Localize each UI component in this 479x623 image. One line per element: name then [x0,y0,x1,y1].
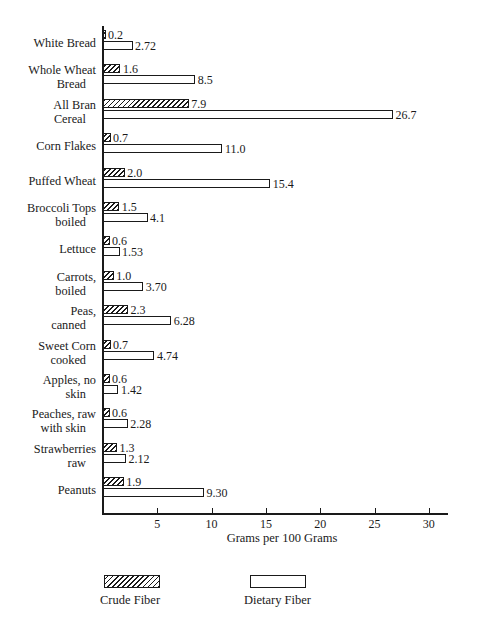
x-axis-tick-30 [429,508,430,513]
category-label-line2: boiled [0,215,96,229]
category-label-line1: Apples, no [43,373,96,387]
category-label-7: Carrots,boiled [0,270,96,298]
value-label-dietary-5: 4.1 [150,212,165,224]
category-label-line2: boiled [0,284,96,298]
value-label-dietary-4: 15.4 [273,178,294,190]
x-axis-line [102,513,448,515]
bar-crude-6 [103,236,110,245]
category-label-9: Sweet Corncooked [0,339,96,367]
category-label-line1: Carrots, [57,270,96,284]
bar-dietary-0 [103,41,133,50]
category-label-line1: Peaches, raw [32,407,96,421]
category-label-line1: Strawberries [34,442,96,456]
category-label-11: Peaches, rawwith skin [0,407,96,435]
x-axis-tick-label-30: 30 [409,517,449,532]
bar-dietary-3 [103,144,222,153]
legend-swatch-crude-fiber [104,575,160,588]
bar-crude-3 [103,133,111,142]
x-axis-tick-25 [375,508,376,513]
value-label-dietary-9: 4.74 [157,350,178,362]
category-label-line1: Peas, [70,304,96,318]
category-label-12: Strawberriesraw [0,442,96,470]
bar-dietary-5 [103,213,148,222]
value-label-dietary-8: 6.28 [174,315,195,327]
category-label-line2: cooked [0,353,96,367]
bar-dietary-9 [103,351,154,360]
value-label-crude-11: 0.6 [112,407,127,419]
value-label-crude-7: 1.0 [116,270,131,282]
bar-dietary-10 [103,385,118,394]
x-axis-tick-label-25: 25 [355,517,395,532]
value-label-dietary-0: 2.72 [135,40,156,52]
value-label-dietary-3: 11.0 [225,143,246,155]
bar-crude-5 [103,202,119,211]
x-axis-tick-5 [157,508,158,513]
bar-dietary-12 [103,454,126,463]
value-label-crude-8: 2.3 [130,304,145,316]
value-label-crude-9: 0.7 [113,339,128,351]
bar-crude-10 [103,374,110,383]
category-label-line1: Whole Wheat [28,63,96,77]
bar-crude-13 [103,477,124,486]
value-label-dietary-11: 2.28 [130,418,151,430]
bar-crude-4 [103,168,125,177]
x-axis-tick-label-15: 15 [246,517,286,532]
category-label-3: Corn Flakes [0,139,96,153]
bar-dietary-2 [103,110,393,119]
category-label-10: Apples, noskin [0,373,96,401]
bar-crude-11 [103,408,110,417]
bar-crude-7 [103,271,114,280]
value-label-dietary-6: 1.53 [122,246,143,258]
bar-dietary-7 [103,282,143,291]
x-axis-tick-20 [320,508,321,513]
category-label-4: Puffed Wheat [0,174,96,188]
bar-crude-9 [103,340,111,349]
value-label-crude-3: 0.7 [113,132,128,144]
bar-dietary-11 [103,419,128,428]
category-label-5: Broccoli Topsboiled [0,201,96,229]
category-label-8: Peas,canned [0,304,96,332]
category-label-line1: Sweet Corn [38,339,96,353]
category-label-line1: White Bread [34,36,96,50]
category-label-line1: Lettuce [59,242,96,256]
bar-dietary-4 [103,179,270,188]
bar-crude-8 [103,305,128,314]
value-label-crude-5: 1.5 [122,201,137,213]
category-label-line2: with skin [0,421,96,435]
category-label-line2: raw [0,456,96,470]
legend-label-crude-fiber: Crude Fiber [100,593,160,608]
category-label-line2: Cereal [0,112,96,126]
bar-dietary-13 [103,488,204,497]
bar-dietary-6 [103,247,120,256]
category-label-1: Whole WheatBread [0,63,96,91]
x-axis-tick-label-5: 5 [137,517,177,532]
value-label-crude-13: 1.9 [126,476,141,488]
category-label-6: Lettuce [0,242,96,256]
category-label-line1: Peanuts [58,483,96,497]
category-label-line2: Bread [0,77,96,91]
bar-crude-12 [103,443,117,452]
value-label-crude-2: 7.9 [191,98,206,110]
value-label-dietary-7: 3.70 [146,281,167,293]
value-label-dietary-13: 9.30 [206,487,227,499]
legend-label-dietary-fiber: Dietary Fiber [244,593,311,608]
value-label-dietary-1: 8.5 [198,74,213,86]
legend-swatch-dietary-fiber [250,575,306,588]
category-label-line2: canned [0,318,96,332]
category-label-line2: skin [0,387,96,401]
category-label-line1: All Bran [53,98,96,112]
value-label-crude-4: 2.0 [127,167,142,179]
category-label-0: White Bread [0,36,96,50]
category-label-line1: Puffed Wheat [28,174,96,188]
bar-dietary-1 [103,75,195,84]
category-label-13: Peanuts [0,483,96,497]
value-label-crude-1: 1.6 [123,63,138,75]
x-axis-tick-label-20: 20 [300,517,340,532]
category-label-line1: Corn Flakes [36,139,96,153]
x-axis-tick-15 [266,508,267,513]
value-label-crude-0: 0.2 [108,29,123,41]
bar-dietary-8 [103,316,171,325]
value-label-dietary-10: 1.42 [121,384,142,396]
category-label-2: All BranCereal [0,98,96,126]
bar-crude-0 [103,30,106,39]
